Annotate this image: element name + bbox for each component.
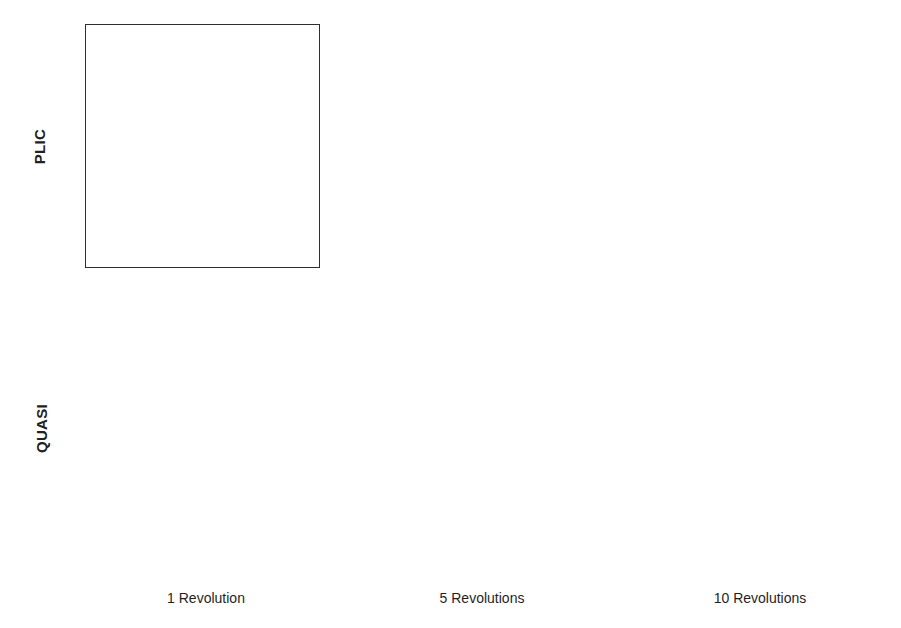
column-caption-10-revolutions: 10 Revolutions: [714, 590, 807, 606]
row-label-plic: PLIC: [31, 102, 48, 192]
column-caption-1-revolution: 1 Revolution: [167, 590, 245, 606]
row-label-quasi: QUASI: [33, 374, 50, 484]
plot-frame: [85, 24, 320, 268]
column-caption-5-revolutions: 5 Revolutions: [440, 590, 525, 606]
panel-plic-1-revolution: [85, 24, 320, 268]
figure-canvas: PLIC QUASI 1 Revolution 5 Revolutions 10…: [0, 0, 901, 628]
